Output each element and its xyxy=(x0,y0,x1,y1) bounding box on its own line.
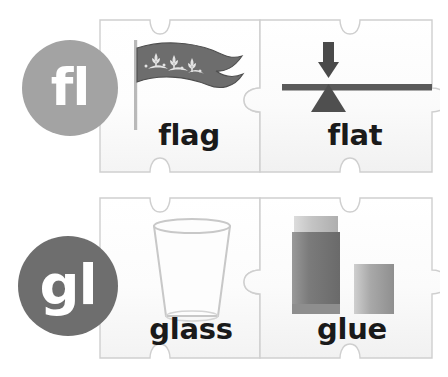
drinking-glass-icon xyxy=(142,216,242,326)
blend-circle-gl[interactable]: gl xyxy=(18,236,118,336)
word-label-glass: glass xyxy=(106,312,276,346)
puzzle-card-canvas: flag flat xyxy=(0,0,448,377)
blend-label-fl: fl xyxy=(51,61,89,113)
word-label-glue: glue xyxy=(272,312,432,346)
glue-collar xyxy=(294,216,338,234)
glass-rim xyxy=(154,219,230,233)
blend-row-gl: glass xyxy=(92,190,440,368)
word-label-flag: flag xyxy=(114,118,264,152)
glue-body xyxy=(292,232,340,314)
down-arrow-icon xyxy=(318,42,339,78)
level-beam xyxy=(282,84,432,91)
blend-circle-fl[interactable]: fl xyxy=(22,40,118,136)
flag-icon xyxy=(130,38,250,130)
glass-body xyxy=(154,226,230,316)
glue-cap xyxy=(354,264,394,314)
blend-row-fl: flag flat xyxy=(92,12,440,182)
word-label-flat: flat xyxy=(280,118,430,152)
balance-beam-icon xyxy=(282,40,432,126)
glue-stick-icon xyxy=(282,212,412,327)
blend-label-gl: gl xyxy=(39,257,96,313)
